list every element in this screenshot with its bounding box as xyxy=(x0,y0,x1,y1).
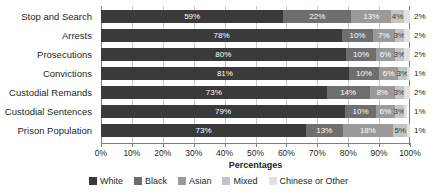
bar-segment: 81% xyxy=(101,67,349,80)
bar-segment-label: 6% xyxy=(383,70,395,78)
bar-segment: 5% xyxy=(393,124,407,137)
x-axis-tick xyxy=(286,143,287,147)
bar-segment xyxy=(404,29,410,42)
bar-row: 80%10%6%3%2% xyxy=(101,48,410,61)
x-axis-tick xyxy=(132,143,133,147)
bar-segment: 73% xyxy=(101,124,306,137)
category-label: Custodial Remands xyxy=(0,86,96,99)
legend-swatch-icon xyxy=(269,177,277,185)
bar-segment: 3% xyxy=(395,105,404,118)
bar-segment xyxy=(407,67,410,80)
legend-swatch-icon xyxy=(222,177,230,185)
bar-segment-label: 73% xyxy=(196,127,212,135)
x-axis-title: Percentages xyxy=(101,160,410,170)
legend-label: Mixed xyxy=(233,176,257,186)
x-axis-tick xyxy=(256,143,257,147)
bar-segment: 79% xyxy=(101,105,345,118)
plot-area: 59%22%13%4%2%78%10%7%3%2%80%10%6%3%2%81%… xyxy=(101,10,410,143)
legend-item[interactable]: White xyxy=(89,176,123,186)
bar-row: 78%10%7%3%2% xyxy=(101,29,410,42)
bar-segment: 14% xyxy=(327,86,370,99)
bar-rows: 59%22%13%4%2%78%10%7%3%2%80%10%6%3%2%81%… xyxy=(101,10,410,143)
x-axis-tick xyxy=(379,143,380,147)
bar-segment: 6% xyxy=(376,105,395,118)
bar-row: 73%14%8%3%2% xyxy=(101,86,410,99)
legend-item[interactable]: Asian xyxy=(178,176,212,186)
legend-item[interactable]: Chinese or Other xyxy=(269,176,349,186)
bar-segment: 18% xyxy=(343,124,394,137)
bar-segment-label: 79% xyxy=(215,108,231,116)
bar-segment-label: 59% xyxy=(184,13,200,21)
legend-swatch-icon xyxy=(134,177,142,185)
legend-item[interactable]: Mixed xyxy=(222,176,257,186)
bar-segment-label: 80% xyxy=(215,51,231,59)
legend-item[interactable]: Black xyxy=(134,176,167,186)
bar-segment-label: 78% xyxy=(214,32,230,40)
stacked-bar-chart: Stop and SearchArrestsProsecutionsConvic… xyxy=(0,0,437,195)
bar-segment-label: 73% xyxy=(206,89,222,97)
x-axis-tick-label: 60% xyxy=(278,148,295,158)
bar-segment-label: 10% xyxy=(353,51,369,59)
bar-segment: 10% xyxy=(345,105,376,118)
bar-segment-label: 10% xyxy=(353,108,369,116)
bar-segment-label: 2% xyxy=(414,48,426,61)
x-axis-tick-label: 40% xyxy=(216,148,233,158)
x-axis-tick xyxy=(317,143,318,147)
legend-swatch-icon xyxy=(178,177,186,185)
bar-segment-label: 1% xyxy=(414,105,426,118)
bar-segment: 6% xyxy=(379,67,397,80)
x-axis-tick-label: 80% xyxy=(340,148,357,158)
category-label: Prison Population xyxy=(0,124,96,137)
bar-segment-label: 6% xyxy=(380,51,392,59)
bar-segment-label: 4% xyxy=(392,13,404,21)
x-axis-tick-label: 50% xyxy=(247,148,264,158)
bar-segment: 59% xyxy=(101,10,283,23)
bar-segment: 22% xyxy=(283,10,351,23)
bar-segment: 3% xyxy=(398,67,407,80)
bar-segment-label: 81% xyxy=(217,70,233,78)
bar-segment xyxy=(407,124,410,137)
x-axis-tick-label: 30% xyxy=(185,148,202,158)
bar-segment-label: 7% xyxy=(378,32,390,40)
legend-swatch-icon xyxy=(89,177,97,185)
bar-segment: 80% xyxy=(101,48,346,61)
bar-segment: 10% xyxy=(349,67,380,80)
legend-label: White xyxy=(100,176,123,186)
bar-segment-label: 22% xyxy=(309,13,325,21)
bar-segment: 3% xyxy=(395,29,404,42)
bar-segment: 3% xyxy=(395,48,404,61)
x-axis-tick xyxy=(163,143,164,147)
bar-segment xyxy=(404,48,410,61)
legend-label: Chinese or Other xyxy=(280,176,349,186)
bar-segment: 3% xyxy=(395,86,404,99)
bar-segment-label: 13% xyxy=(363,13,379,21)
bar-segment-label: 2% xyxy=(414,86,426,99)
bar-segment: 13% xyxy=(306,124,343,137)
bar-segment-label: 8% xyxy=(376,89,388,97)
bar-row: 59%22%13%4%2% xyxy=(101,10,410,23)
bar-segment-label: 18% xyxy=(360,127,376,135)
category-axis-labels: Stop and SearchArrestsProsecutionsConvic… xyxy=(0,10,96,143)
category-label: Convictions xyxy=(0,67,96,80)
legend-label: Asian xyxy=(189,176,212,186)
bar-row: 79%10%6%3%1% xyxy=(101,105,410,118)
bar-segment-label: 6% xyxy=(379,108,391,116)
category-label: Arrests xyxy=(0,29,96,42)
legend-label: Black xyxy=(145,176,167,186)
bar-segment-label: 5% xyxy=(394,127,406,135)
x-axis-tick xyxy=(101,143,102,147)
bar-segment-label: 10% xyxy=(356,70,372,78)
x-axis-tick-label: 0% xyxy=(95,148,107,158)
bar-segment: 8% xyxy=(370,86,395,99)
bar-segment: 73% xyxy=(101,86,327,99)
x-axis-tick xyxy=(194,143,195,147)
x-axis-tick-label: 90% xyxy=(371,148,388,158)
x-axis-tick xyxy=(410,143,411,147)
bar-row: 81%10%6%3%1% xyxy=(101,67,410,80)
x-axis-tick xyxy=(348,143,349,147)
bar-segment: 7% xyxy=(373,29,395,42)
bar-row: 73%13%18%5%1% xyxy=(101,124,410,137)
bar-segment: 6% xyxy=(376,48,394,61)
bar-segment: 4% xyxy=(391,10,403,23)
chart-legend: WhiteBlackAsianMixedChinese or Other xyxy=(0,176,437,186)
